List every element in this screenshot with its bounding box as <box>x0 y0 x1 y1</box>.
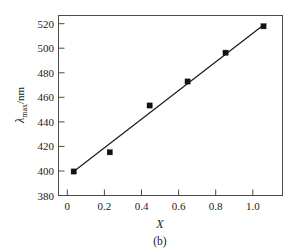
fit-line-layer <box>74 25 264 171</box>
x-tick-label: 0.4 <box>135 200 149 212</box>
data-point-marker <box>261 24 266 29</box>
y-tick-label: 380 <box>38 190 55 202</box>
x-tick-labels: 0 0.2 0.4 0.6 0.8 1.0 <box>65 200 261 212</box>
y-tick-label: 420 <box>38 140 55 152</box>
x-axis-ticks <box>67 190 253 196</box>
linear-fit-line <box>74 25 264 171</box>
y-axis-title: λmax/nm <box>13 87 29 125</box>
figure-caption: (b) <box>153 235 167 248</box>
x-tick-label: 0.8 <box>209 200 223 212</box>
x-axis-title: X <box>155 217 164 231</box>
x-tick-label: 0.6 <box>172 200 186 212</box>
data-point-marker <box>107 150 112 155</box>
data-point-marker <box>185 79 190 84</box>
y-tick-labels: 380 400 420 440 460 480 500 520 <box>38 18 55 202</box>
y-tick-label: 480 <box>38 67 55 79</box>
data-point-marker <box>147 103 152 108</box>
y-tick-label: 400 <box>38 165 55 177</box>
x-tick-label: 1.0 <box>246 200 260 212</box>
chart-canvas: 380 400 420 440 460 480 500 520 0 0.2 0.… <box>0 0 302 250</box>
svg-text:λmax/nm: λmax/nm <box>13 87 29 125</box>
y-axis-title-subscript: max <box>20 104 29 118</box>
data-point-marker <box>223 50 228 55</box>
y-tick-label: 520 <box>38 18 55 30</box>
y-tick-label: 500 <box>38 42 55 54</box>
data-point-marker <box>71 169 76 174</box>
x-tick-label: 0.2 <box>98 200 112 212</box>
y-axis-ticks <box>59 24 65 196</box>
y-tick-label: 460 <box>38 91 55 103</box>
y-axis-title-unit: /nm <box>14 87 26 105</box>
x-tick-label: 0 <box>65 200 71 212</box>
plot-frame <box>59 16 283 196</box>
figure-panel: 380 400 420 440 460 480 500 520 0 0.2 0.… <box>0 0 302 250</box>
y-tick-label: 440 <box>38 116 55 128</box>
